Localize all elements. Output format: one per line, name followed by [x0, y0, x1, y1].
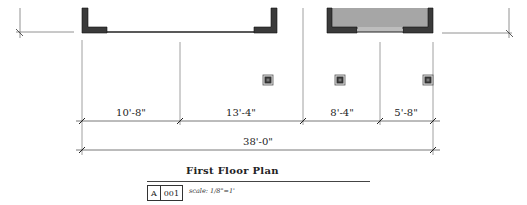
sheet-label-box: A 001: [147, 185, 183, 201]
segment-dimension-line: [76, 118, 440, 124]
dimension-label: 13'-4": [226, 107, 256, 118]
left-grid-marker: [16, 8, 74, 38]
sheet-letter: A: [148, 186, 160, 200]
scale-label: scale: 1/8"=1': [189, 187, 235, 195]
total-dimension-line: [76, 147, 440, 153]
structural-columns: [263, 75, 433, 85]
right-grid-marker: [442, 8, 513, 38]
column: [335, 75, 345, 85]
dimension-label: 8'-4": [330, 107, 353, 118]
left-room-walls: [82, 8, 277, 33]
dimension-label: 10'-8": [116, 107, 146, 118]
drawing-title: First Floor Plan: [186, 165, 279, 176]
column: [423, 75, 433, 85]
column: [263, 75, 273, 85]
dimension-label: 5'-8": [394, 107, 417, 118]
title-underline: [147, 181, 370, 182]
total-dimension-label: 38'-0": [243, 136, 273, 147]
right-room: [327, 8, 433, 33]
sheet-number: 001: [160, 186, 182, 200]
